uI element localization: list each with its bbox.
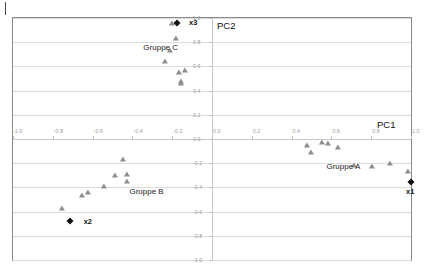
data-point-triangle	[405, 168, 411, 173]
y-tick-label: -0.6	[193, 209, 202, 215]
data-point-triangle	[335, 144, 341, 149]
y-tick-label: 0.0	[193, 136, 201, 142]
group-label: Gruppe C	[143, 43, 178, 52]
data-point-triangle	[112, 172, 118, 177]
data-point-triangle	[387, 161, 393, 166]
y-tick-label: -0.2	[193, 160, 202, 166]
point-label: x3	[189, 18, 197, 27]
group-label: Gruppe A	[326, 162, 360, 171]
y-tick-mark	[209, 163, 212, 164]
data-point-triangle	[307, 149, 313, 154]
x-tick-label: 0.4	[293, 128, 301, 134]
x-tick-label: -0.8	[54, 128, 63, 134]
y-tick-mark	[209, 236, 212, 237]
data-point-triangle	[182, 67, 188, 72]
data-point-triangle	[100, 183, 106, 188]
x-tick-mark	[53, 136, 54, 139]
y-tick-mark	[209, 91, 212, 92]
data-point-triangle	[124, 178, 130, 183]
x-tick-label: -0.6	[94, 128, 103, 134]
x-tick-label: 0.2	[253, 128, 261, 134]
axis-label-pc1: PC1	[377, 119, 395, 130]
data-point-triangle	[120, 157, 126, 162]
x-tick-mark	[172, 136, 173, 139]
data-point-triangle	[59, 205, 65, 210]
y-tick-label: -0.8	[193, 233, 202, 239]
data-point-triangle	[369, 164, 375, 169]
x-tick-mark	[331, 136, 332, 139]
corner-tick-mark	[5, 2, 6, 15]
y-tick-mark	[209, 212, 212, 213]
y-tick-mark	[209, 42, 212, 43]
x-tick-mark	[411, 136, 412, 139]
gridline-horizontal	[13, 260, 411, 261]
x-tick-label: 0.0	[213, 128, 221, 134]
y-tick-mark	[209, 187, 212, 188]
data-point-triangle	[178, 80, 184, 85]
group-label: Gruppe B	[129, 187, 163, 196]
scatter-plot-area: -1.0-0.8-0.6-0.4-0.20.00.20.40.60.81.0 1…	[12, 17, 412, 261]
y-axis-line	[212, 18, 213, 260]
x-tick-mark	[252, 136, 253, 139]
x-tick-label: 1.0	[412, 128, 420, 134]
data-point-triangle	[325, 141, 331, 146]
x-tick-mark	[93, 136, 94, 139]
y-tick-label: 0.8	[193, 39, 201, 45]
y-tick-mark	[209, 115, 212, 116]
x-tick-label: -0.4	[133, 128, 142, 134]
y-tick-label: -1.0	[193, 257, 202, 263]
data-point-diamond	[407, 178, 414, 185]
data-point-diamond	[66, 217, 73, 224]
x-tick-label: -1.0	[13, 128, 22, 134]
data-point-triangle	[79, 193, 85, 198]
y-tick-label: 0.4	[193, 88, 201, 94]
data-point-triangle	[173, 35, 179, 40]
y-tick-mark	[209, 139, 212, 140]
x-tick-label: -0.2	[173, 128, 182, 134]
data-point-diamond	[174, 20, 181, 27]
y-tick-label: 0.6	[193, 63, 201, 69]
y-tick-label: -0.4	[193, 184, 202, 190]
x-tick-mark	[292, 136, 293, 139]
x-tick-label: 0.6	[332, 128, 340, 134]
x-tick-mark	[212, 136, 213, 139]
point-label: x2	[84, 217, 92, 226]
y-tick-label: 0.2	[193, 112, 201, 118]
y-tick-mark	[209, 66, 212, 67]
y-tick-mark	[209, 18, 212, 19]
axis-label-pc2: PC2	[217, 20, 235, 31]
point-label: x1	[406, 187, 414, 196]
x-tick-mark	[132, 136, 133, 139]
x-tick-mark	[13, 136, 14, 139]
y-tick-mark	[209, 260, 212, 261]
chart-canvas: -1.0-0.8-0.6-0.4-0.20.00.20.40.60.81.0 1…	[0, 0, 428, 273]
data-point-triangle	[162, 59, 168, 64]
data-point-triangle	[303, 142, 309, 147]
data-point-triangle	[124, 172, 130, 177]
x-tick-mark	[371, 136, 372, 139]
data-point-triangle	[85, 189, 91, 194]
